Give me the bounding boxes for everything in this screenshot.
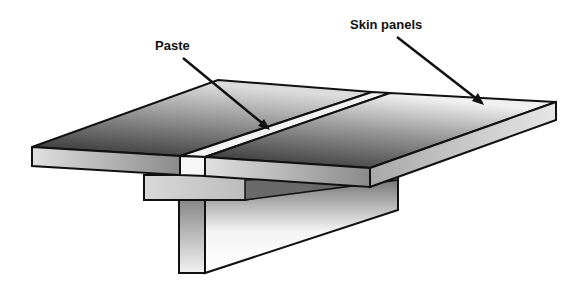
paste-label: Paste	[155, 38, 190, 53]
skin-panels-label: Skin panels	[350, 17, 422, 32]
joint-diagram	[0, 0, 588, 289]
